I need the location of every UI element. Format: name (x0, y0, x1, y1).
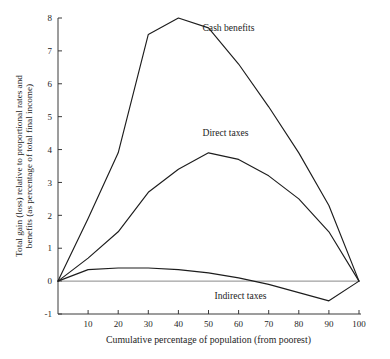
x-tick-label: 10 (84, 319, 94, 329)
y-tick-label: 6 (48, 79, 53, 89)
x-tick-label: 70 (264, 319, 274, 329)
x-tick-label: 20 (114, 319, 124, 329)
x-tick-label: 90 (324, 319, 334, 329)
x-tick-label: 60 (234, 319, 244, 329)
y-tick-label: 5 (48, 112, 53, 122)
income-distribution-line-chart: -1012345678 102030405060708090100 Cash b… (0, 0, 390, 359)
series-label-cash-benefits: Cash benefits (202, 22, 254, 33)
y-tick-label: 0 (48, 276, 53, 286)
x-tick-label: 30 (144, 319, 154, 329)
y-tick-label: 8 (48, 13, 53, 23)
y-tick-label: 7 (48, 46, 53, 56)
y-tick-label: 3 (48, 178, 53, 188)
y-tick-label: -1 (45, 309, 53, 319)
x-axis-title: Cumulative percentage of population (fro… (106, 334, 311, 346)
series-label-indirect-taxes: Indirect taxes (215, 290, 267, 301)
x-tick-label: 80 (294, 319, 304, 329)
y-tick-label: 1 (48, 243, 53, 253)
chart-figure: -1012345678 102030405060708090100 Cash b… (0, 0, 390, 359)
x-tick-label: 40 (174, 319, 184, 329)
x-tick-label: 100 (352, 319, 366, 329)
y-axis-title-line-2: benefits (as percentage of total final i… (24, 84, 34, 248)
y-axis-title: Total gain (loss) relative to proportion… (14, 75, 34, 257)
y-axis-title-line-1: Total gain (loss) relative to proportion… (14, 75, 24, 257)
x-tick-label: 50 (204, 319, 214, 329)
y-tick-label: 2 (48, 211, 53, 221)
y-tick-label: 4 (48, 145, 53, 155)
series-label-direct-taxes: Direct taxes (202, 127, 248, 138)
